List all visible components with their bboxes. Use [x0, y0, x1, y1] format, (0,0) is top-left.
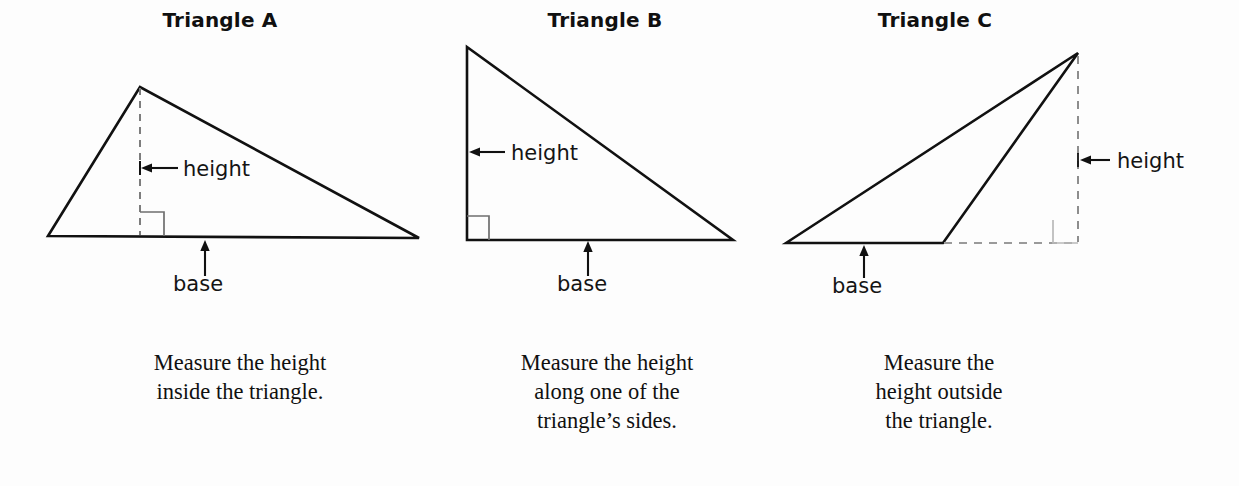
triangle-c-base-label: base: [832, 274, 882, 298]
caption-line: Measure the height: [437, 348, 777, 377]
caption-line: triangle’s sides.: [437, 406, 777, 435]
triangle-b-height-label: height: [511, 141, 578, 165]
caption-line: the triangle.: [779, 406, 1099, 435]
triangle-a-base-label: base: [173, 272, 223, 296]
triangle-c-height-label: height: [1117, 149, 1184, 173]
triangle-a-base-arrow: [200, 240, 209, 276]
triangle-a-right-angle-icon: [140, 212, 164, 236]
triangle-a-shape: [48, 87, 419, 276]
triangle-b-caption: Measure the height along one of the tria…: [437, 348, 777, 435]
triangle-c-caption: Measure the height outside the triangle.: [779, 348, 1099, 435]
triangle-a-caption: Measure the height inside the triangle.: [70, 348, 410, 406]
triangle-a-height-arrow: [140, 161, 178, 175]
caption-line: Measure the height: [70, 348, 410, 377]
triangle-a-height-label: height: [183, 157, 250, 181]
triangle-b-title: Triangle B: [440, 8, 770, 32]
triangle-b-base-label: base: [557, 272, 607, 296]
caption-line: along one of the: [437, 377, 777, 406]
caption-line: inside the triangle.: [70, 377, 410, 406]
caption-line: height outside: [779, 377, 1099, 406]
triangle-height-diagram: Triangle A: [0, 0, 1239, 486]
caption-line: Measure the: [779, 348, 1099, 377]
triangle-c-title: Triangle C: [770, 8, 1100, 32]
